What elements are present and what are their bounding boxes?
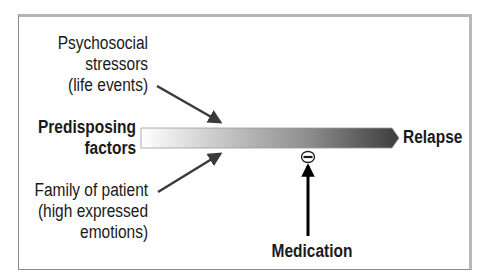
predisposing-label: Predisposing factors [38, 117, 136, 159]
family-line-3: emotions) [34, 222, 148, 243]
predisposing-line-1: Predisposing [38, 117, 136, 138]
stressors-line-3: (life events) [58, 75, 148, 96]
stressors-arrow [157, 86, 220, 122]
progression-bar [141, 128, 399, 148]
family-line-2: (high expressed [34, 201, 148, 222]
stressors-line-2: stressors [58, 54, 148, 75]
family-label: Family of patient (high expressed emotio… [34, 180, 148, 243]
stressors-line-1: Psychosocial [58, 33, 148, 54]
minus-circle-icon [302, 152, 315, 163]
medication-label: Medication [269, 241, 355, 262]
family-arrow [158, 154, 220, 192]
family-line-1: Family of patient [34, 180, 148, 201]
predisposing-line-2: factors [38, 138, 136, 159]
relapse-label: Relapse [403, 127, 462, 148]
stressors-label: Psychosocial stressors (life events) [58, 33, 148, 96]
